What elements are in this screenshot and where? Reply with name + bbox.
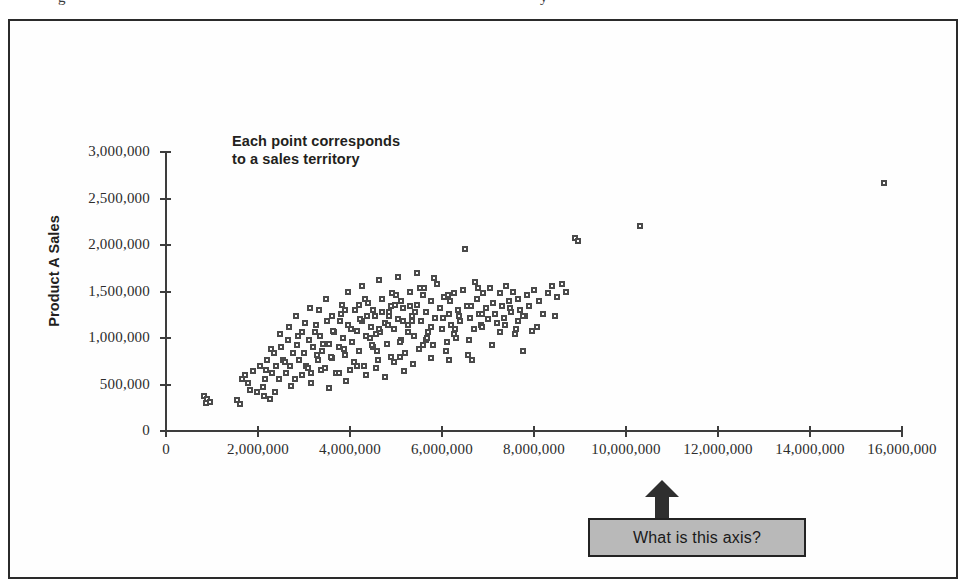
scatter-point: [424, 335, 430, 341]
y-tick-label: 0: [50, 422, 150, 439]
scatter-point: [207, 399, 213, 405]
scatter-point: [288, 383, 294, 389]
scatter-point: [357, 316, 363, 322]
scatter-point: [487, 285, 493, 291]
scatter-point: [329, 313, 335, 319]
scatter-point: [315, 357, 321, 363]
scatter-point: [637, 223, 643, 229]
scatter-point: [260, 384, 266, 390]
scatter-point: [299, 372, 305, 378]
scatter-point: [515, 296, 521, 302]
scatter-point: [341, 346, 347, 352]
scatter-point: [264, 357, 270, 363]
scatter-point: [375, 357, 381, 363]
plot-annotation: Each point corresponds to a sales territ…: [232, 133, 400, 168]
scatter-point: [451, 290, 457, 296]
scatter-point: [489, 342, 495, 348]
scatter-point: [370, 307, 376, 313]
scatter-point: [506, 298, 512, 304]
scatter-point: [414, 270, 420, 276]
scatter-point: [374, 348, 380, 354]
scatter-point: [277, 331, 283, 337]
scatter-point: [420, 342, 426, 348]
scatter-point: [273, 363, 279, 369]
scatter-point: [431, 275, 437, 281]
scatter-point: [468, 303, 474, 309]
scatter-point: [342, 352, 348, 358]
y-tick-label: 500,000: [50, 376, 150, 393]
scatter-point: [382, 374, 388, 380]
scatter-point: [347, 367, 353, 373]
scatter-point: [388, 303, 394, 309]
top-clipped-text: g y: [0, 0, 966, 5]
y-tick: [160, 337, 171, 339]
scatter-point: [407, 289, 413, 295]
scatter-point: [411, 333, 417, 339]
y-tick: [160, 198, 171, 200]
scatter-point: [369, 342, 375, 348]
x-tick: [809, 426, 811, 437]
scatter-point: [446, 357, 452, 363]
scatter-point: [295, 333, 301, 339]
scatter-point: [440, 315, 446, 321]
scatter-point: [379, 309, 385, 315]
scatter-point: [237, 401, 243, 407]
scatter-point: [352, 307, 358, 313]
scatter-point: [314, 352, 320, 358]
scatter-point: [307, 305, 313, 311]
scatter-point: [515, 318, 521, 324]
scatter-point: [379, 296, 385, 302]
scatter-point: [507, 305, 513, 311]
scatter-point: [446, 311, 452, 317]
y-tick: [160, 384, 171, 386]
scatter-point: [420, 292, 426, 298]
scatter-point: [497, 329, 503, 335]
y-tick: [160, 244, 171, 246]
scatter-point: [340, 335, 346, 341]
x-tick: [533, 426, 535, 437]
scatter-point: [368, 324, 374, 330]
plot-annotation-line-2: to a sales territory: [232, 151, 400, 169]
scatter-point: [330, 328, 336, 334]
scatter-point: [405, 329, 411, 335]
scatter-point: [531, 287, 537, 293]
scatter-point: [391, 359, 397, 365]
scatter-point: [292, 376, 298, 382]
scatter-point: [469, 357, 475, 363]
scatter-point: [354, 328, 360, 334]
scatter-point: [262, 376, 268, 382]
scatter-point: [398, 298, 404, 304]
scatter-point: [400, 305, 406, 311]
scatter-point: [367, 335, 373, 341]
scatter-point: [434, 281, 440, 287]
scatter-point: [362, 296, 368, 302]
x-tick: [441, 426, 443, 437]
scatter-point: [466, 337, 472, 343]
scatter-point: [524, 292, 530, 298]
top-clip-segment-left: g: [58, 0, 66, 5]
scatter-point: [437, 305, 443, 311]
scatter-point: [520, 348, 526, 354]
scatter-point: [512, 331, 518, 337]
scatter-point: [402, 350, 408, 356]
scatter-point: [445, 292, 451, 298]
scatter-point: [397, 339, 403, 345]
scatter-point: [423, 309, 429, 315]
scatter-point: [278, 344, 284, 350]
scatter-point: [391, 326, 397, 332]
scatter-point: [348, 326, 354, 332]
scatter-point: [552, 313, 558, 319]
scatter-point: [326, 341, 332, 347]
scatter-point: [343, 378, 349, 384]
scatter-point: [549, 283, 555, 289]
scatter-plot-area: Product A Sales 0500,0001,000,0001,500,0…: [10, 21, 960, 581]
scatter-point: [247, 387, 253, 393]
scatter-point: [285, 337, 291, 343]
scatter-point: [316, 307, 322, 313]
scatter-point: [336, 370, 342, 376]
scatter-point: [457, 318, 463, 324]
scatter-point: [356, 348, 362, 354]
scatter-point: [318, 367, 324, 373]
scatter-point: [376, 277, 382, 283]
scatter-point: [443, 348, 449, 354]
